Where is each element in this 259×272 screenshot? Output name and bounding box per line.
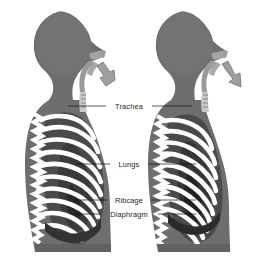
label-text-diaphragm: Diaphragm [110,210,148,219]
label-text-trachea: Trachea [115,102,144,111]
breathing-diagram: TracheaLungsRibcageDiaphragm [0,0,259,272]
label-text-ribcage: Ribcage [115,196,143,205]
label-text-lungs: Lungs [119,160,140,169]
anatomy-illustration: TracheaLungsRibcageDiaphragm [0,0,259,272]
